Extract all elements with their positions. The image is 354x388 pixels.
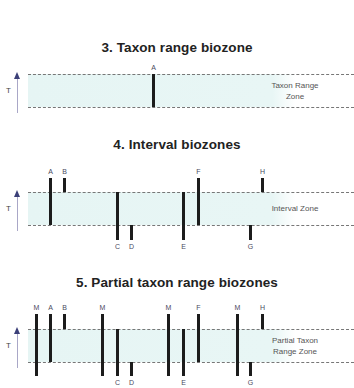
taxon-label-m: M [30, 304, 44, 311]
panel-title-taxon-range: 3. Taxon range biozone [0, 40, 354, 55]
arrow-up-icon [14, 72, 20, 79]
taxon-range-bar-h [261, 178, 264, 192]
taxon-label-h: H [256, 304, 270, 311]
taxon-range-bar-f [197, 314, 200, 362]
time-axis [17, 333, 18, 368]
taxon-range-bar-m [167, 314, 170, 376]
taxon-range-bar-c [116, 192, 119, 240]
taxon-label-d: D [125, 379, 139, 386]
taxon-label-e: E [177, 243, 191, 250]
taxon-label-d: D [125, 243, 139, 250]
taxon-label-a: A [147, 64, 161, 71]
taxon-range-bar-e [182, 329, 185, 376]
zone-label: Partial TaxonRange Zone [250, 335, 340, 357]
taxon-label-m: M [96, 304, 110, 311]
zone-label: Interval Zone [250, 203, 340, 214]
zone-bottom-boundary [28, 225, 354, 226]
taxon-range-bar-d [130, 362, 133, 376]
taxon-label-a: A [44, 168, 58, 175]
taxon-label-c: C [111, 379, 125, 386]
zone-top-boundary [28, 192, 354, 193]
time-axis-label: T [6, 341, 11, 350]
taxon-range-bar-f [197, 178, 200, 225]
taxon-range-bar-m [236, 314, 239, 376]
taxon-label-c: C [111, 243, 125, 250]
time-axis [17, 78, 18, 113]
zone-bottom-boundary [28, 362, 354, 363]
taxon-range-bar-b [63, 314, 66, 329]
taxon-range-bar-c [116, 329, 119, 376]
taxon-range-bar-g [249, 225, 252, 240]
taxon-label-g: G [244, 379, 258, 386]
taxon-range-bar-a [49, 178, 52, 225]
taxon-range-bar-m [101, 314, 104, 376]
taxon-label-a: A [44, 304, 58, 311]
panel-title-partial-taxon-range: 5. Partial taxon range biozones [0, 275, 354, 290]
taxon-label-f: F [192, 304, 206, 311]
taxon-range-bar-a [49, 314, 52, 362]
taxon-label-e: E [177, 379, 191, 386]
taxon-label-h: H [256, 168, 270, 175]
taxon-range-bar-m [35, 314, 38, 376]
zone-bottom-boundary [28, 107, 354, 108]
arrow-up-icon [14, 190, 20, 197]
zone-top-boundary [28, 329, 354, 330]
taxon-label-f: F [192, 168, 206, 175]
zone-top-boundary [28, 74, 354, 75]
taxon-label-b: B [58, 168, 72, 175]
taxon-label-b: B [58, 304, 72, 311]
zone-label: Taxon RangeZone [250, 80, 340, 102]
time-axis [17, 196, 18, 231]
taxon-label-g: G [244, 243, 258, 250]
taxon-range-bar-a [152, 74, 155, 107]
time-axis-label: T [6, 86, 11, 95]
time-axis-label: T [6, 204, 11, 213]
taxon-range-bar-h [261, 314, 264, 329]
taxon-range-bar-d [130, 225, 133, 240]
taxon-label-m: M [231, 304, 245, 311]
taxon-range-bar-e [182, 192, 185, 240]
taxon-range-bar-g [249, 362, 252, 376]
arrow-up-icon [14, 327, 20, 334]
taxon-range-bar-b [63, 178, 66, 192]
panel-title-interval: 4. Interval biozones [0, 137, 354, 152]
taxon-label-m: M [162, 304, 176, 311]
